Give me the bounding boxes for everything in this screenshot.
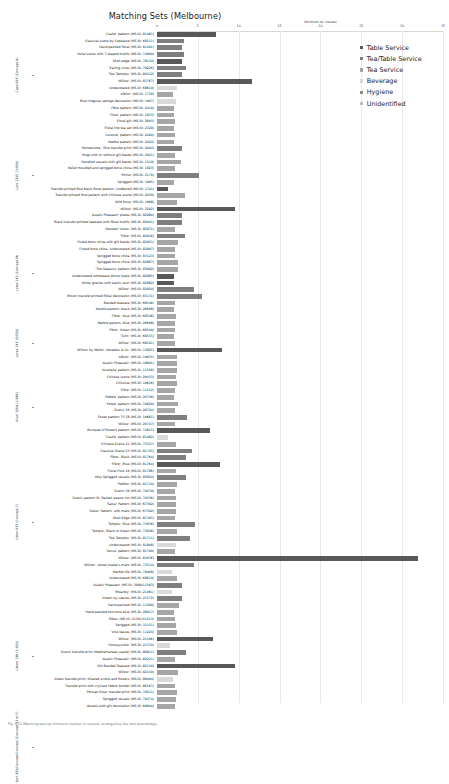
bar-row[interactable]: Black transfer-printed teaware with flor…	[157, 219, 443, 226]
legend-item[interactable]: Beverage	[360, 76, 449, 87]
bar[interactable]	[157, 334, 174, 339]
bar[interactable]	[157, 583, 182, 588]
bar-row[interactable]: 'Willow' (MS ID: 21506)	[157, 636, 443, 643]
bar[interactable]	[157, 287, 194, 292]
bar-row[interactable]: 'Setso' Pattern, with mark (MS ID: 67302…	[157, 508, 443, 515]
bar[interactable]	[157, 536, 190, 541]
bar[interactable]	[157, 166, 175, 171]
bar[interactable]	[157, 281, 174, 286]
bar[interactable]	[157, 92, 173, 97]
bar-row[interactable]: 'Castle' pattern (MS ID: 81462)	[157, 434, 443, 441]
bar-row[interactable]: 'Fibre' (MS ID: 11512)	[157, 387, 443, 394]
bar-row[interactable]: 'Satsu' Pattern (MS ID: 67302)	[157, 501, 443, 508]
bar[interactable]	[157, 99, 176, 104]
bar[interactable]	[157, 395, 174, 400]
bar[interactable]	[157, 697, 176, 702]
bar[interactable]	[157, 449, 192, 454]
bar[interactable]	[157, 113, 174, 118]
bar-row[interactable]: 'Asiatic Pheasant' (MS ID: 3080/11563)	[157, 582, 443, 589]
bar[interactable]	[157, 462, 220, 467]
bar[interactable]	[157, 52, 184, 57]
bar-row[interactable]: 'Venus' pattern (MS ID: 81709)	[157, 548, 443, 555]
bar[interactable]	[157, 220, 182, 225]
bar[interactable]	[157, 623, 176, 628]
bar-row[interactable]: Chinoise (MS ID: 10616)	[157, 380, 443, 387]
bar-row[interactable]: 'Asiatic Pheasant' (MS ID: 18691)	[157, 360, 443, 367]
bar-row[interactable]: 'Willow' (MS ID: 68521)	[157, 340, 443, 347]
bar-row[interactable]: 'Fibre', Black (MS ID: 81764)	[157, 454, 443, 461]
bar[interactable]	[157, 563, 194, 568]
bar[interactable]	[157, 368, 177, 373]
bar-row[interactable]: Undecorated (MS ID: 81808)	[157, 542, 443, 549]
bar-row[interactable]: 'Fibre', Green (MS ID: 68549)	[157, 327, 443, 334]
bar[interactable]	[157, 664, 235, 669]
bar[interactable]	[157, 388, 175, 393]
bar-row[interactable]: Sprigged bone china (MS ID: 82887)	[157, 259, 443, 266]
legend-item[interactable]: Tea Service	[360, 64, 449, 75]
bar-row[interactable]: Sprigged vessels (MS ID: 79374)	[157, 696, 443, 703]
bar-row[interactable]: Panelled vessels with gilt bands (MS ID:…	[157, 159, 443, 166]
bar-row[interactable]: 'Wild Rose' (MS ID: 1968)	[157, 199, 443, 206]
bar-row[interactable]: 'Dresden Views' (MS ID: 82971)	[157, 226, 443, 233]
bar[interactable]	[157, 173, 199, 178]
bar-row[interactable]: 'Lucerne' pattern (MS ID: 2494)	[157, 132, 443, 139]
legend-item[interactable]: Hygiene	[360, 87, 449, 98]
bar[interactable]	[157, 590, 172, 595]
bar-row[interactable]: 'Honeysuckle' (MS ID: 21370)	[157, 642, 443, 649]
bar-row[interactable]: Marble pattern, blue (MS ID: 26698)	[157, 320, 443, 327]
bar[interactable]	[157, 307, 174, 312]
bar[interactable]	[157, 86, 177, 91]
bar[interactable]	[157, 522, 195, 527]
legend-item[interactable]: Tea/Table Service	[360, 53, 449, 64]
bar[interactable]	[157, 690, 177, 695]
bar-row[interactable]: Hand-painted (MS ID: 11200)	[157, 602, 443, 609]
bar-row[interactable]: Relief moulded and sprigged bone china (…	[157, 165, 443, 172]
bar[interactable]	[157, 516, 175, 521]
bar[interactable]	[157, 657, 175, 662]
bar[interactable]	[157, 650, 186, 655]
bar-row[interactable]: Sheet pattern 75 58 (MS ID: 10661)	[157, 414, 443, 421]
bar[interactable]	[157, 207, 235, 212]
bar[interactable]	[157, 72, 182, 77]
legend-item[interactable]: Unidentified	[360, 98, 449, 109]
bar[interactable]	[157, 146, 182, 151]
bar-row[interactable]: Gilt Banded Teaware (MS ID: 82139)	[157, 663, 443, 670]
bar-row[interactable]: Fluted bone china, undecorated (MS ID: 8…	[157, 246, 443, 253]
bar[interactable]	[157, 321, 175, 326]
bar-row[interactable]: 'Pelew' pattern (MS ID: 10629)	[157, 401, 443, 408]
bar[interactable]	[157, 39, 184, 44]
legend-item[interactable]: Table Service	[360, 42, 449, 53]
bar-row[interactable]: 'Fibre', blue (MS ID: 68546)	[157, 313, 443, 320]
bar[interactable]	[157, 617, 175, 622]
bar-row[interactable]: 'Rhine' (MS ID: 2170)	[157, 172, 443, 179]
bar[interactable]	[157, 240, 178, 245]
bar[interactable]	[157, 469, 176, 474]
bar[interactable]	[157, 133, 175, 138]
bar[interactable]	[157, 502, 176, 507]
bar[interactable]	[157, 637, 213, 642]
bar[interactable]	[157, 355, 177, 360]
bar[interactable]	[157, 160, 181, 165]
bar-row[interactable]: 'Temple', Black or Green (MS ID: 75836)	[157, 528, 443, 535]
bar[interactable]	[157, 294, 202, 299]
bar[interactable]	[157, 684, 175, 689]
bar-row[interactable]: 'Willow' (MS ID: 82850)	[157, 286, 443, 293]
bar[interactable]	[157, 576, 177, 581]
bar[interactable]	[157, 348, 222, 353]
bar[interactable]	[157, 596, 182, 601]
bar-row[interactable]: 'Fibre', Blue (MS ID: 81764)	[157, 461, 443, 468]
bar[interactable]	[157, 153, 175, 158]
bar[interactable]	[157, 556, 418, 561]
bar-row[interactable]: 'Willow' (MS ID: 2292)	[157, 206, 443, 213]
bar[interactable]	[157, 603, 179, 608]
bar[interactable]	[157, 482, 177, 487]
bar-row[interactable]: Marble pattern, black (MS ID: 26698)	[157, 306, 443, 313]
bar[interactable]	[157, 254, 175, 259]
bar-row[interactable]: Scenic 56 (MS ID: 20724)	[157, 407, 443, 414]
bar-row[interactable]: Classical Scene 53 (MS ID: 81745)	[157, 448, 443, 455]
bar[interactable]	[157, 247, 175, 252]
bar-row[interactable]: 'Pebble' pattern (MS ID: 20726)	[157, 394, 443, 401]
bar-row[interactable]: 'Two Temples' (MS ID: 81711)	[157, 535, 443, 542]
bar-row[interactable]: Floral gilt (MS ID: 2693)	[157, 118, 443, 125]
bar-row[interactable]: 'Willow', wheel-maker's mark (MS ID: 735…	[157, 562, 443, 569]
